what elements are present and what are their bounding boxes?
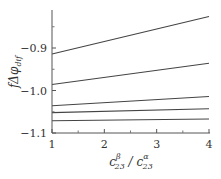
y-tick-label: −1.0 <box>20 85 47 98</box>
line-chart: −0.9−1.0−1.1 1234 fΔφdif cβ23 / cα23 <box>0 0 221 179</box>
x-tick-label: 1 <box>49 138 56 151</box>
y-ticks: −0.9−1.0−1.1 <box>20 27 56 140</box>
series-line4 <box>52 109 209 113</box>
y-tick-label: −0.9 <box>20 42 47 55</box>
x-axis-title: cβ23 / cα23 <box>109 152 153 171</box>
series-line2 <box>52 63 209 84</box>
y-axis-title: fΔφdif <box>7 54 23 89</box>
y-tick-label: −1.1 <box>20 127 47 140</box>
series-line3 <box>52 96 209 105</box>
series-line5 <box>52 119 209 121</box>
x-tick-label: 4 <box>206 138 213 151</box>
plot-lines <box>52 17 209 121</box>
x-tick-label: 2 <box>101 138 108 151</box>
x-ticks: 1234 <box>49 129 213 151</box>
series-line1 <box>52 17 209 54</box>
x-tick-label: 3 <box>153 138 160 151</box>
